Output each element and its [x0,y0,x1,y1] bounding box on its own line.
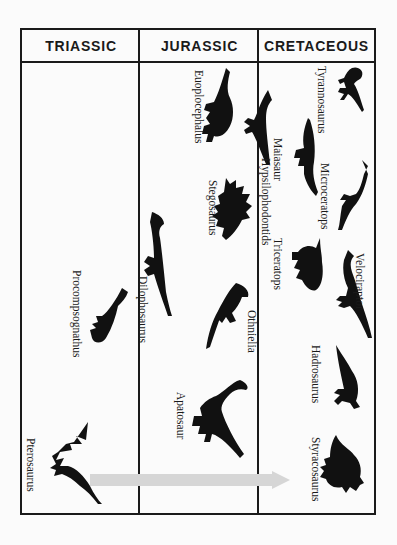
label-microceratops: Microceratops [319,163,331,229]
hypsilophodontid-silhouette-icon [242,90,274,166]
column-divider [138,30,140,513]
label-apatosaur: Apatosaur [175,392,187,439]
microceratops-silhouette-icon [336,160,370,232]
hadrosaurus-silhouette-icon [328,345,362,411]
time-arrow [90,471,290,489]
label-procompsognathus: Procompsognathus [71,270,83,358]
label-velociraptor: Velociraptor [354,253,366,310]
triceratops-silhouette-icon [290,238,326,294]
styracosaurus-silhouette-icon [320,435,364,495]
label-stegosaurus: Stegosaurus [207,180,219,236]
tyrannosaurus-silhouette-icon [334,66,366,114]
apatosaur-silhouette-icon [190,380,250,464]
euoplocephalus-silhouette-icon [200,68,238,142]
header-row-border [22,30,374,63]
label-hypsilophodontids: Hypsilophodontids [260,158,272,246]
label-euoplocephalus: Euoplocephalus [193,70,205,143]
label-othnielia: Othnielia [246,310,258,353]
maiasaur-silhouette-icon [290,118,320,198]
velociraptor-silhouette-icon [332,250,372,340]
label-styracosaurus: Styracosaurus [310,437,322,502]
label-pterosaurus: Pterosaurus [25,438,37,492]
procompsognathus-silhouette-icon [88,288,128,344]
othnielia-silhouette-icon [206,283,250,351]
pterosaurus-silhouette-icon [46,422,102,504]
label-dilophosaurus: Dilophosaurus [137,276,149,343]
label-triceratops: Triceratops [272,238,284,290]
label-hadrosaurus: Hadrosaurus [310,345,322,403]
